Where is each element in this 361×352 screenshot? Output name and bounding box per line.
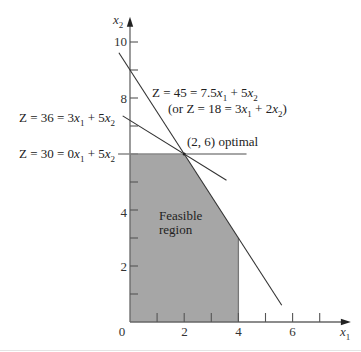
feasible-region-label-line1: Feasible (159, 208, 203, 223)
annotation-z30: Z = 30 = 0x1 + 5x2 (19, 146, 115, 164)
x-tick-label-2: 2 (181, 324, 188, 339)
x-tick-label-0: 0 (119, 324, 126, 339)
optimal-point-marker (183, 152, 186, 155)
y-tick-label-4: 4 (121, 205, 128, 220)
annotation-z18-alt: (or Z = 18 = 3x1 + 2x2) (168, 101, 287, 119)
y-tick-label-10: 10 (114, 34, 127, 49)
y-tick-label-8: 8 (121, 91, 128, 106)
x-tick-label-6: 6 (289, 324, 296, 339)
annotation-z36: Z = 36 = 3x1 + 5x2 (19, 110, 115, 128)
y-tick-label-2: 2 (121, 259, 128, 274)
annotation-optimal-point: (2, 6) optimal (187, 134, 259, 149)
feasible-region-label-line2: region (159, 222, 193, 237)
x-tick-label-4: 4 (235, 324, 242, 339)
annotation-z45: Z = 45 = 7.5x1 + 5x2 (152, 85, 258, 103)
lp-graph: x2 x1 10 8 4 2 0 2 4 6 Z = 45 = 7.5x1 + … (0, 0, 361, 352)
